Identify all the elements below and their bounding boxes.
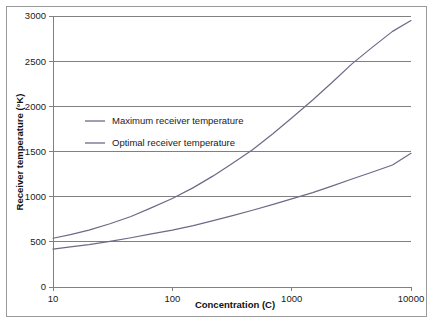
series-line-0 — [53, 21, 411, 239]
y-tick-label: 3000 — [25, 10, 46, 21]
x-tick-label: 100 — [164, 293, 180, 304]
y-tick-label: 0 — [41, 281, 46, 292]
y-tick-label: 1000 — [25, 191, 46, 202]
x-tick-label: 10000 — [398, 293, 424, 304]
x-tick-label: 1000 — [281, 293, 302, 304]
legend-label-1: Optimal receiver temperature — [112, 137, 235, 148]
y-tick-label: 2000 — [25, 101, 46, 112]
chart-frame: 050010001500200025003000 10100100010000 … — [6, 6, 427, 317]
y-tick-label: 2500 — [25, 56, 46, 67]
x-axis-title: Concentration (C) — [195, 299, 275, 310]
gridlines — [53, 16, 411, 242]
y-axis-ticks: 050010001500200025003000 — [25, 10, 53, 292]
y-tick-label: 500 — [30, 236, 46, 247]
series-line-1 — [53, 153, 411, 249]
line-chart: 050010001500200025003000 10100100010000 … — [7, 7, 426, 316]
x-tick-label: 10 — [48, 293, 59, 304]
y-axis-title: Receiver temperature (°K) — [14, 94, 25, 211]
series-lines — [53, 21, 411, 250]
chart-legend: Maximum receiver temperatureOptimal rece… — [85, 115, 243, 148]
legend-label-0: Maximum receiver temperature — [112, 115, 243, 126]
y-tick-label: 1500 — [25, 146, 46, 157]
